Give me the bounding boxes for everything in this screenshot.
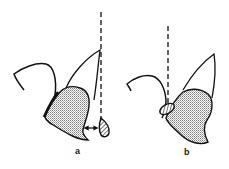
gingiva-a <box>45 87 89 140</box>
dental-diagram <box>0 0 229 169</box>
panel-b <box>127 26 215 144</box>
hatched-element-a <box>100 118 110 137</box>
panel-label-b: b <box>184 147 190 157</box>
panel-label-a: a <box>75 146 80 156</box>
panel-a <box>14 12 109 140</box>
gingiva-b <box>166 89 212 143</box>
